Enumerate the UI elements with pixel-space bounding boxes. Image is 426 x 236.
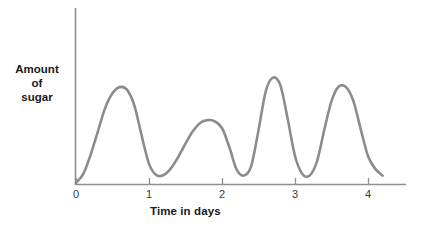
x-tick-label-4: 4 [358,188,378,200]
chart-plot-area [0,0,426,236]
y-axis-label-line-3: sugar [8,90,66,104]
x-tick-label-1: 1 [139,188,159,200]
x-axis-label: Time in days [150,205,221,217]
y-axis-label: Amount of sugar [8,62,66,104]
x-tick-label-0: 0 [66,188,86,200]
sugar-amount-curve [76,77,383,183]
x-tick-label-2: 2 [212,188,232,200]
y-axis-label-line-2: of [8,76,66,90]
y-axis-label-line-1: Amount [8,62,66,76]
x-tick-label-3: 3 [285,188,305,200]
chart-figure: Amount of sugar Time in days 0 1 2 3 4 [0,0,426,236]
